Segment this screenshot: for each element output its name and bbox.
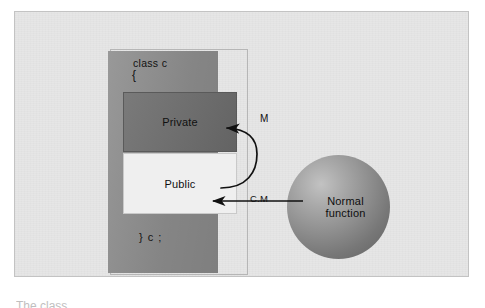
cm-arrow-label: C.M xyxy=(250,193,268,204)
public-section-label: Public xyxy=(164,178,195,190)
page-caption-sliver: The class xyxy=(16,300,166,308)
private-section-box: Private xyxy=(123,92,237,152)
normal-function-label-line2: function xyxy=(325,207,365,219)
normal-function-label: Normal function xyxy=(311,195,365,219)
normal-function-label-line1: Normal xyxy=(325,195,365,207)
opening-brace-text: { xyxy=(132,68,136,82)
m-arrow-label: M xyxy=(260,113,269,124)
class-declaration-text: class c xyxy=(133,57,167,69)
closing-brace-text: } c ; xyxy=(139,231,162,243)
public-section-box: Public xyxy=(123,153,237,214)
private-section-label: Private xyxy=(162,116,198,128)
diagram-frame: class c { } c ; Private Public Normal fu… xyxy=(14,11,469,277)
normal-function-sphere: Normal function xyxy=(287,155,390,259)
